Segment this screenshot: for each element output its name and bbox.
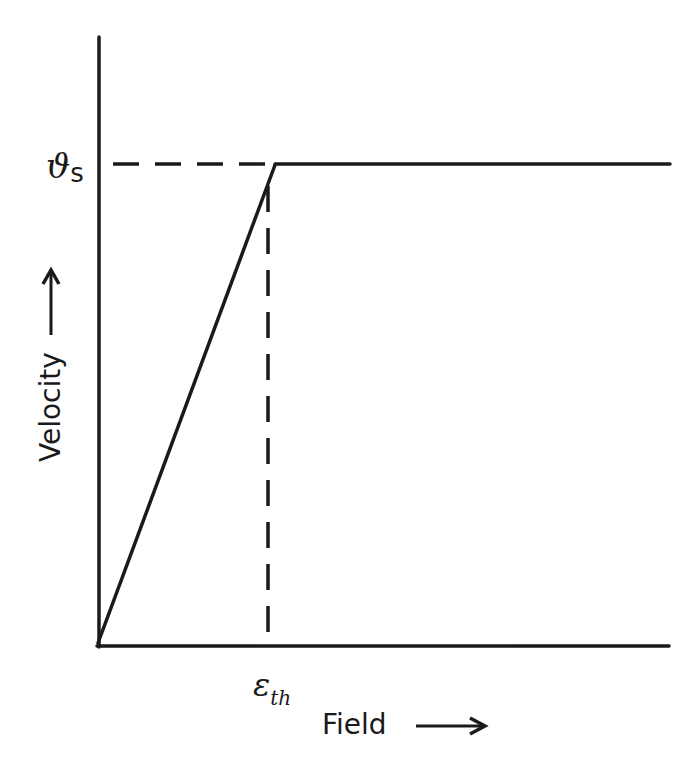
y-axis-arrow-icon: [43, 270, 59, 335]
vs-label: ϑs: [46, 146, 84, 188]
x-axis-label: Field: [322, 708, 387, 741]
linear-ramp-line: [98, 165, 275, 643]
eth-label: εth: [253, 666, 291, 710]
y-axis-label: Velocity: [34, 352, 67, 462]
velocity-field-diagram: ϑs εth Field Velocity: [0, 0, 700, 761]
x-axis-arrow-icon: [416, 718, 485, 734]
